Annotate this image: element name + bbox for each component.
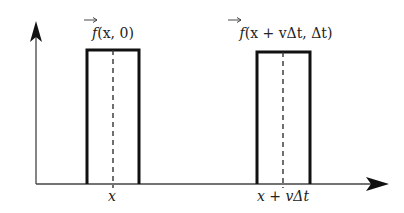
vector-arrow-icon [84,18,97,23]
pulse-translated-label: f(x + vΔt, Δt) [239,25,333,41]
y-axis [30,21,42,184]
pulse-diagram: f(x, 0) x f(x + vΔt, Δt) x + vΔt [0,0,404,213]
pulse-initial-label: f(x, 0) [91,25,134,41]
pulse-initial-position-label: x [108,188,116,204]
x-axis [36,177,389,191]
pulse-initial-args: (x, 0) [97,25,134,41]
pulse-translated-position-label: x + vΔt [257,188,310,204]
pulse-translated: f(x + vΔt, Δt) x + vΔt [228,18,332,205]
pulse-initial: f(x, 0) x [84,18,139,205]
vector-arrow-icon [228,18,241,23]
pulse-translated-args: (x + vΔt, Δt) [245,25,333,41]
